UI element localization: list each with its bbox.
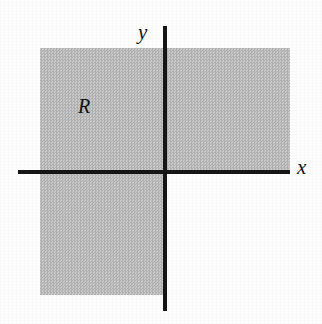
figure-canvas: y x R (0, 0, 322, 324)
y-axis-label: y (138, 22, 147, 43)
x-axis-label: x (297, 157, 306, 178)
vertical-axis (163, 26, 167, 311)
region-label-r: R (78, 96, 90, 116)
shaded-region-lower-left-block (40, 172, 166, 295)
horizontal-axis (18, 170, 290, 174)
